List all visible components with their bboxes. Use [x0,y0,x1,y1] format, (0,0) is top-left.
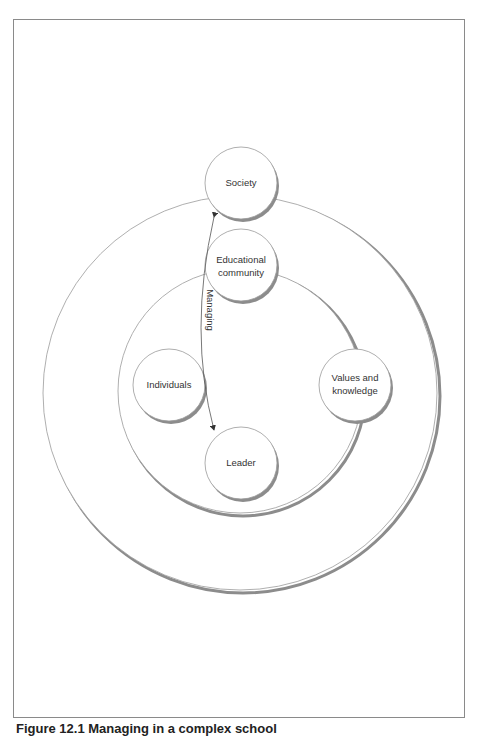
node-label-society: Society [225,177,256,188]
node-label-individuals: Individuals [147,379,192,390]
managing-label: Managing [205,289,216,331]
node-label-leader: Leader [226,457,256,468]
node-label-values-and: Values and [332,372,379,383]
figure-caption: Figure 12.1 Managing in a complex school [16,721,277,736]
node-label-educational: Educational [216,254,266,265]
node-label-knowledge: knowledge [332,385,377,396]
node-label-community: community [218,267,264,278]
